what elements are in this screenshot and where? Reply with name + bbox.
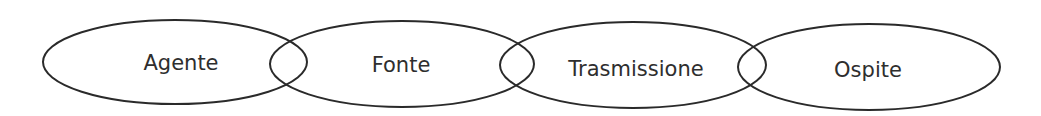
label-trasmissione: Trasmissione bbox=[567, 57, 703, 81]
node-fonte: Fonte bbox=[270, 21, 534, 107]
label-ospite: Ospite bbox=[834, 58, 902, 82]
epidemiological-chain-diagram: Agente Fonte Trasmissione Ospite bbox=[0, 0, 1041, 116]
node-ospite: Ospite bbox=[738, 24, 1000, 110]
label-agente: Agente bbox=[143, 51, 218, 75]
node-trasmissione: Trasmissione bbox=[500, 22, 766, 108]
node-agente: Agente bbox=[43, 20, 307, 104]
label-fonte: Fonte bbox=[372, 53, 431, 77]
